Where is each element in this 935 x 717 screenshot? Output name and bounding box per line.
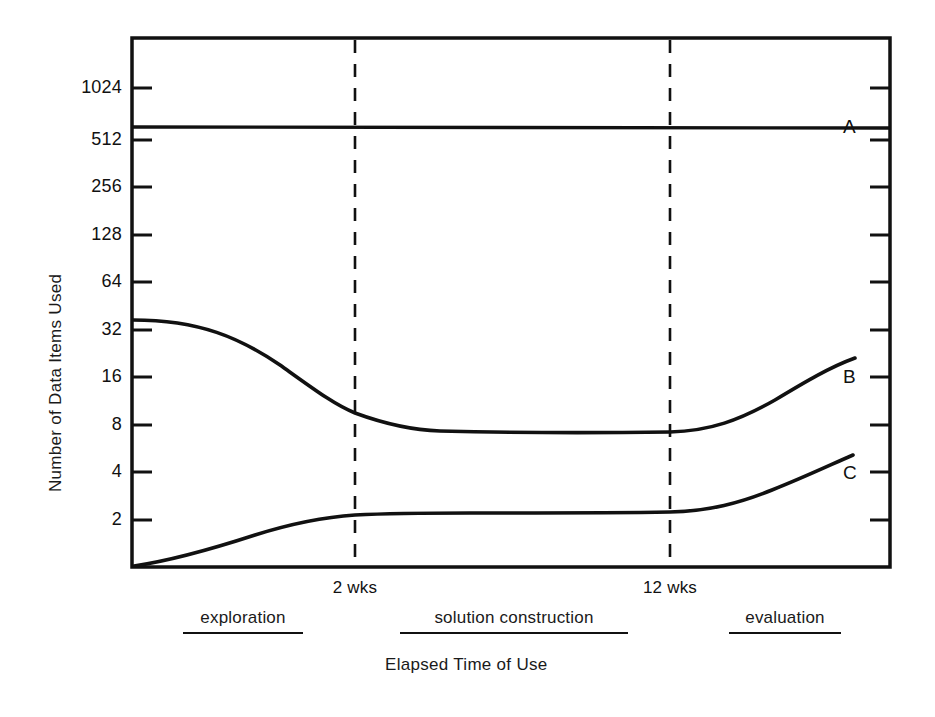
x-tick-label-2wks: 2 wks — [295, 578, 415, 598]
series-label-c: C — [843, 462, 857, 484]
series-line-a — [133, 127, 889, 128]
x-axis-title: Elapsed Time of Use — [385, 655, 548, 675]
phase-label-evaluation: evaluation — [729, 608, 841, 628]
phase-underline-solution-construction — [400, 632, 628, 634]
series-label-b: B — [843, 366, 856, 388]
series-line-b — [133, 320, 855, 433]
x-tick-label-12wks: 12 wks — [610, 578, 730, 598]
y-axis-ticks-right — [870, 88, 890, 520]
phase-underline-exploration — [183, 632, 303, 634]
series-line-c — [134, 455, 853, 566]
chart-figure: Number of Data Items Used 1024 512 256 1… — [0, 0, 935, 717]
phase-underline-evaluation — [729, 632, 841, 634]
phase-label-exploration: exploration — [183, 608, 303, 628]
series-label-a: A — [843, 116, 856, 138]
y-axis-ticks-left — [132, 88, 152, 520]
phase-label-solution-construction: solution construction — [400, 608, 628, 628]
